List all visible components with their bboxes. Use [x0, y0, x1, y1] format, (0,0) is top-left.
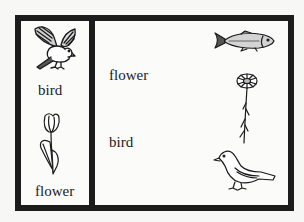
daisy-icon [235, 73, 259, 145]
flying-bird-icon [31, 23, 79, 73]
fish-icon [213, 30, 277, 52]
tulip-icon [35, 112, 67, 178]
left-panel: bird flower [21, 21, 89, 205]
right-panel: flower bird [95, 21, 288, 205]
flower-label: flower [35, 184, 74, 199]
bird-label: bird [38, 83, 62, 98]
worksheet-frame: bird flower flower bird [15, 15, 294, 211]
word-flower: flower [109, 68, 148, 83]
songbird-icon [213, 148, 277, 192]
word-bird: bird [109, 135, 133, 150]
